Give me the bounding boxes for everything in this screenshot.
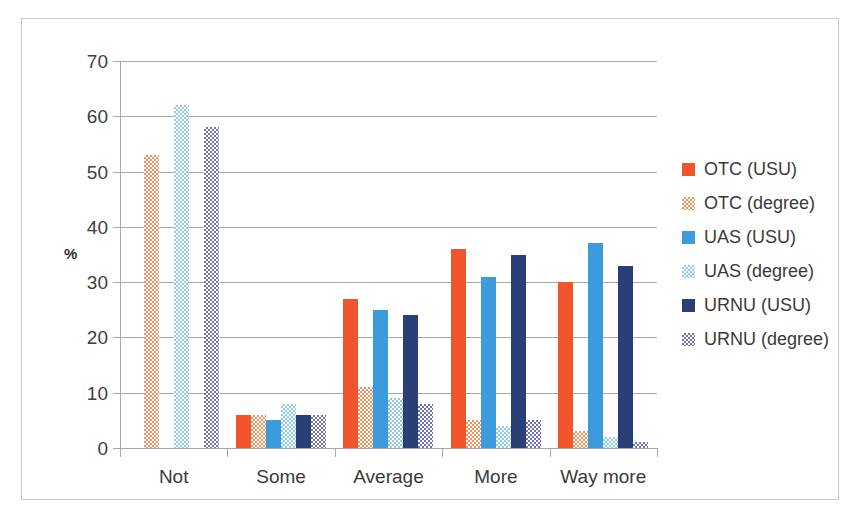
bar-group-bars bbox=[335, 61, 442, 448]
bar-uas-usu[interactable] bbox=[588, 243, 603, 448]
x-axis-tick-label: Average bbox=[353, 467, 423, 486]
bar-urnu-usu[interactable] bbox=[403, 315, 418, 448]
x-axis-tick-label: Not bbox=[159, 467, 189, 486]
screenshot-root: % 706050403020100 NotSomeAverageMoreWay … bbox=[0, 0, 865, 520]
legend-swatch-urnu-usu bbox=[682, 299, 695, 312]
x-axis-tick-label: Some bbox=[256, 467, 306, 486]
bar-group bbox=[335, 61, 442, 448]
y-axis-tick-label: 40 bbox=[87, 217, 108, 236]
x-axis-tick bbox=[442, 449, 443, 457]
y-axis-tick bbox=[113, 393, 120, 394]
legend-item[interactable]: UAS (USU) bbox=[682, 220, 829, 254]
bar-otc-degree[interactable] bbox=[251, 415, 266, 448]
x-axis-tick-label: More bbox=[474, 467, 517, 486]
bar-group bbox=[120, 61, 227, 448]
bar-urnu-degree[interactable] bbox=[633, 442, 648, 448]
legend-item[interactable]: UAS (degree) bbox=[682, 254, 829, 288]
y-axis-tick bbox=[113, 116, 120, 117]
x-axis-tick bbox=[120, 449, 121, 457]
bar-otc-degree[interactable] bbox=[144, 155, 159, 448]
bar-urnu-degree[interactable] bbox=[204, 127, 219, 448]
bar-uas-degree[interactable] bbox=[174, 105, 189, 448]
legend-item[interactable]: URNU (degree) bbox=[682, 322, 829, 356]
x-axis-tick-label: Way more bbox=[560, 467, 646, 486]
bar-uas-degree[interactable] bbox=[281, 404, 296, 448]
bar-group-bars bbox=[550, 61, 657, 448]
bar-uas-usu[interactable] bbox=[266, 420, 281, 448]
y-axis-tick bbox=[113, 282, 120, 283]
legend-label: UAS (degree) bbox=[704, 262, 814, 280]
bar-otc-usu[interactable] bbox=[451, 249, 466, 448]
x-axis-tick bbox=[550, 449, 551, 457]
bar-group-bars bbox=[227, 61, 334, 448]
legend-swatch-uas-degree bbox=[682, 265, 695, 278]
legend-label: URNU (degree) bbox=[704, 330, 829, 348]
y-axis-tick-label: 30 bbox=[87, 273, 108, 292]
y-axis-tick-label: 20 bbox=[87, 328, 108, 347]
y-axis-tick bbox=[113, 337, 120, 338]
plot-area: 706050403020100 bbox=[120, 61, 657, 448]
legend-swatch-otc-usu bbox=[682, 163, 695, 176]
legend-label: UAS (USU) bbox=[704, 228, 796, 246]
bar-otc-usu[interactable] bbox=[558, 282, 573, 448]
y-axis-tick-label: 0 bbox=[97, 439, 108, 458]
y-axis-tick bbox=[113, 172, 120, 173]
chart-frame: % 706050403020100 NotSomeAverageMoreWay … bbox=[21, 18, 839, 500]
bar-group bbox=[442, 61, 549, 448]
bar-group-bars bbox=[120, 61, 227, 448]
bar-urnu-usu[interactable] bbox=[296, 415, 311, 448]
legend-label: OTC (USU) bbox=[704, 160, 797, 178]
legend-swatch-urnu-degree bbox=[682, 333, 695, 346]
bar-otc-degree[interactable] bbox=[466, 420, 481, 448]
y-axis-tick-label: 60 bbox=[87, 107, 108, 126]
bar-uas-usu[interactable] bbox=[373, 310, 388, 448]
bar-otc-usu[interactable] bbox=[236, 415, 251, 448]
bar-urnu-degree[interactable] bbox=[526, 420, 541, 448]
legend-item[interactable]: OTC (USU) bbox=[682, 152, 829, 186]
legend-label: URNU (USU) bbox=[704, 296, 811, 314]
y-axis-title: % bbox=[64, 245, 77, 262]
y-axis-tick-label: 10 bbox=[87, 383, 108, 402]
bar-group bbox=[227, 61, 334, 448]
bar-uas-degree[interactable] bbox=[496, 426, 511, 448]
legend-item[interactable]: OTC (degree) bbox=[682, 186, 829, 220]
y-axis-tick bbox=[113, 227, 120, 228]
bar-otc-degree[interactable] bbox=[358, 387, 373, 448]
legend-label: OTC (degree) bbox=[704, 194, 815, 212]
chart-legend: OTC (USU)OTC (degree)UAS (USU)UAS (degre… bbox=[682, 152, 829, 356]
bar-otc-degree[interactable] bbox=[573, 431, 588, 448]
bar-uas-degree[interactable] bbox=[388, 398, 403, 448]
legend-swatch-uas-usu bbox=[682, 231, 695, 244]
bar-uas-usu[interactable] bbox=[481, 277, 496, 448]
x-axis-tick bbox=[227, 449, 228, 457]
x-axis-tick bbox=[335, 449, 336, 457]
bar-urnu-usu[interactable] bbox=[511, 255, 526, 449]
bar-group bbox=[550, 61, 657, 448]
bar-urnu-degree[interactable] bbox=[418, 404, 433, 448]
x-axis-tick bbox=[657, 449, 658, 457]
gridline bbox=[120, 448, 657, 449]
legend-swatch-otc-degree bbox=[682, 197, 695, 210]
legend-item[interactable]: URNU (USU) bbox=[682, 288, 829, 322]
y-axis-tick bbox=[113, 448, 120, 449]
bar-group-bars bbox=[442, 61, 549, 448]
bar-otc-usu[interactable] bbox=[343, 299, 358, 448]
bar-uas-degree[interactable] bbox=[603, 437, 618, 448]
y-axis-tick-label: 70 bbox=[87, 52, 108, 71]
bar-urnu-degree[interactable] bbox=[311, 415, 326, 448]
y-axis-tick-label: 50 bbox=[87, 162, 108, 181]
bar-urnu-usu[interactable] bbox=[618, 266, 633, 448]
y-axis-tick bbox=[113, 61, 120, 62]
